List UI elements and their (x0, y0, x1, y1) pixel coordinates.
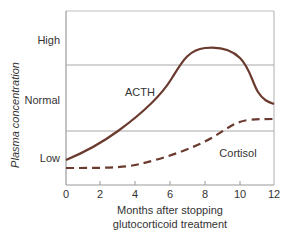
x-axis-title-line1: Months after stopping (117, 204, 223, 216)
acth-curve (66, 47, 274, 160)
x-tick-labels: 0 2 4 6 8 10 12 (63, 188, 280, 200)
x-axis-title-line2: glutocorticoid treatment (113, 218, 227, 230)
x-tick-10: 10 (234, 188, 246, 200)
x-tick-0: 0 (63, 188, 69, 200)
y-label-low: Low (40, 152, 60, 164)
y-label-high: High (37, 34, 60, 46)
cortisol-label: Cortisol (219, 147, 256, 159)
y-axis-title: Plasma concentration (9, 62, 21, 168)
x-tick-2: 2 (97, 188, 103, 200)
x-tick-8: 8 (202, 188, 208, 200)
x-tick-6: 6 (167, 188, 173, 200)
x-tick-4: 4 (132, 188, 138, 200)
x-tick-12: 12 (268, 188, 280, 200)
y-label-normal: Normal (25, 94, 60, 106)
chart-canvas: High Normal Low Plasma concentration 0 2… (0, 0, 290, 235)
acth-label: ACTH (125, 86, 155, 98)
